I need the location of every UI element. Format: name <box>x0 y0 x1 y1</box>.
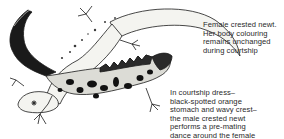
caption-line: during courtship <box>203 47 283 56</box>
caption-line: dance around the female <box>170 132 284 139</box>
female-newt-caption: Female crested newt. Her body colouring … <box>203 21 283 55</box>
male-newt-caption: In courtship dress– black-spotted orange… <box>170 89 284 139</box>
